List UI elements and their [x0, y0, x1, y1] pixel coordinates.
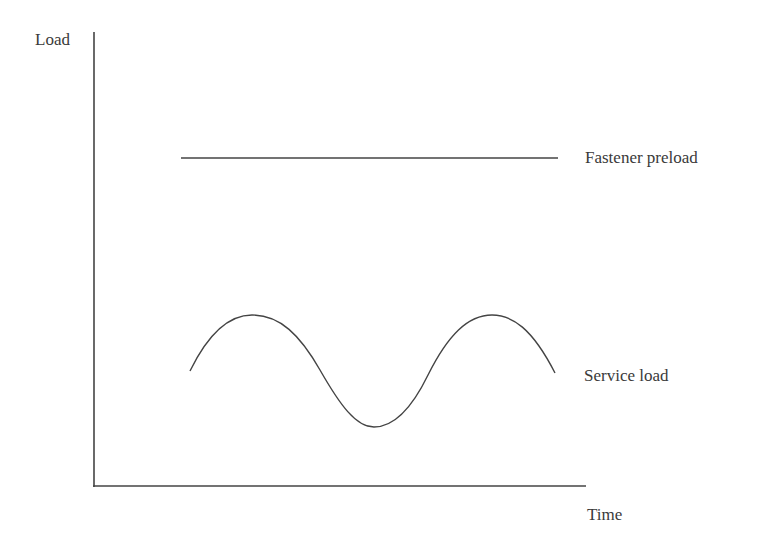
preload-label: Fastener preload [585, 148, 698, 168]
service-load-curve [190, 315, 555, 427]
service-load-label: Service load [584, 366, 669, 386]
load-time-diagram [0, 0, 765, 545]
y-axis-label: Load [35, 30, 70, 50]
x-axis-label: Time [587, 505, 622, 525]
